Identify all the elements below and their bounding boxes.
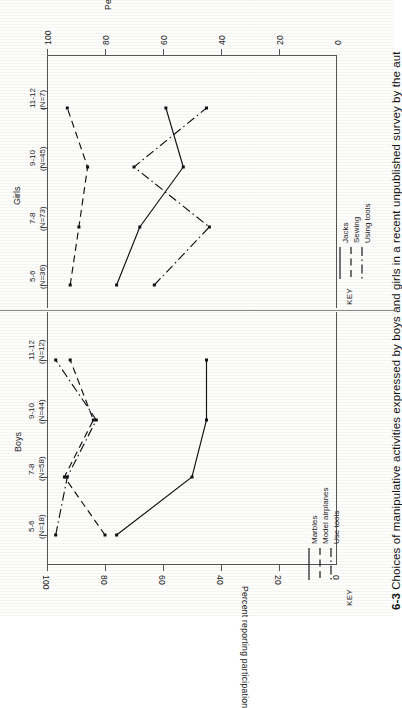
boys-panel: Percent reporting participation Boys 100… [0, 312, 394, 616]
girls-series-layer [0, 0, 394, 308]
boys-legend-label-marbles: Marbles [310, 516, 319, 544]
figure-caption-text: Choices of manipulative activities expre… [390, 51, 402, 589]
girls-legend-label-jacks: Jacks [341, 223, 350, 243]
girls-panel: Percent reporting participation Girls 10… [0, 0, 394, 308]
figure-caption: 6-3 Choices of manipulative activities e… [390, 51, 402, 610]
boys-legend-label-model-airplanes: Model airplanes [321, 488, 330, 544]
boys-legend-label-use-tools: Use tools [332, 511, 341, 544]
boys-legend-samples [305, 546, 365, 626]
panel-divider [0, 310, 394, 311]
girls-legend-label-using-tools: Using tools [363, 203, 372, 243]
figure-number: 6-3 [390, 593, 402, 610]
girls-legend-label-sewing: Sewing [352, 217, 361, 243]
